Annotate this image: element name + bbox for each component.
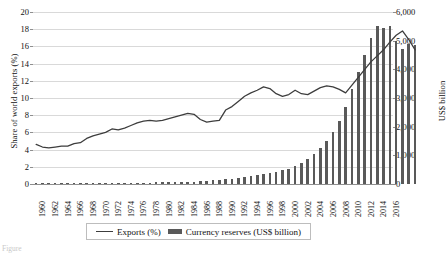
x-tick-label: 1964 — [65, 201, 73, 217]
x-tick-label: 1982 — [178, 201, 186, 217]
left-tick-label: 12 — [3, 77, 29, 86]
right-tick-label: 5,000 — [396, 37, 430, 46]
left-tick-label: 20 — [3, 8, 29, 17]
legend-item-exports: Exports (%) — [96, 227, 161, 237]
x-tick-label: 1986 — [204, 201, 212, 217]
left-tick-label: 0 — [3, 180, 29, 189]
left-tick-label: 6 — [3, 128, 29, 137]
right-tick-mark — [393, 12, 396, 13]
x-tick-label: 1996 — [267, 201, 275, 217]
bar — [395, 41, 398, 184]
line-swatch-icon — [96, 231, 113, 232]
left-tick-label: 4 — [3, 146, 29, 155]
left-tick-label: 10 — [3, 94, 29, 103]
bar — [401, 49, 404, 184]
x-tick-label: 2014 — [380, 201, 388, 217]
x-tick-label: 1980 — [166, 201, 174, 217]
right-tick-mark — [393, 184, 396, 185]
bar — [407, 44, 410, 184]
x-tick-label: 1974 — [128, 201, 136, 217]
chart-legend: Exports (%) Currency reserves (US$ billi… — [86, 223, 311, 240]
legend-label-currency-reserves: Currency reserves (US$ billion) — [186, 227, 301, 237]
left-tick-label: 2 — [3, 163, 29, 172]
x-tick-label: 1966 — [77, 201, 85, 217]
x-tick-label: 1992 — [241, 201, 249, 217]
plot-area — [33, 12, 393, 184]
x-tick-label: 1990 — [229, 201, 237, 217]
x-tick-label: 2006 — [330, 201, 338, 217]
x-tick-label: 1988 — [216, 201, 224, 217]
gridline — [33, 184, 393, 185]
x-tick-label: 1994 — [254, 201, 262, 217]
x-tick-label: 2010 — [355, 201, 363, 217]
x-tick-label: 1962 — [52, 201, 60, 217]
x-tick-label: 2008 — [343, 201, 351, 217]
x-tick-label: 1984 — [191, 201, 199, 217]
exports-line-path — [36, 31, 415, 148]
left-tick-label: 14 — [3, 60, 29, 69]
bar — [414, 45, 417, 184]
line-series-exports — [33, 12, 393, 184]
x-tick-label: 2002 — [305, 201, 313, 217]
x-tick-label: 1978 — [153, 201, 161, 217]
x-tick-label: 1960 — [39, 201, 47, 217]
x-tick-label: 2012 — [368, 201, 376, 217]
bar-swatch-icon — [168, 229, 182, 234]
right-tick-label: 6,000 — [396, 8, 430, 17]
x-axis-tick-labels: 1960196219641966196819701972197419761978… — [33, 186, 393, 220]
x-tick-label: 1968 — [90, 201, 98, 217]
x-tick-label: 1970 — [103, 201, 111, 217]
x-tick-label: 1998 — [279, 201, 287, 217]
x-tick-label: 1976 — [140, 201, 148, 217]
legend-label-exports: Exports (%) — [117, 227, 161, 237]
left-tick-label: 16 — [3, 42, 29, 51]
x-tick-label: 2000 — [292, 201, 300, 217]
legend-item-currency-reserves: Currency reserves (US$ billion) — [168, 227, 301, 237]
right-axis-title: US$ billion — [437, 31, 447, 171]
caption-remnant: Figure — [2, 244, 22, 253]
x-tick-label: 1972 — [115, 201, 123, 217]
left-tick-label: 18 — [3, 25, 29, 34]
x-tick-label: 2016 — [393, 201, 401, 217]
left-tick-label: 8 — [3, 111, 29, 120]
x-tick-label: 2004 — [317, 201, 325, 217]
